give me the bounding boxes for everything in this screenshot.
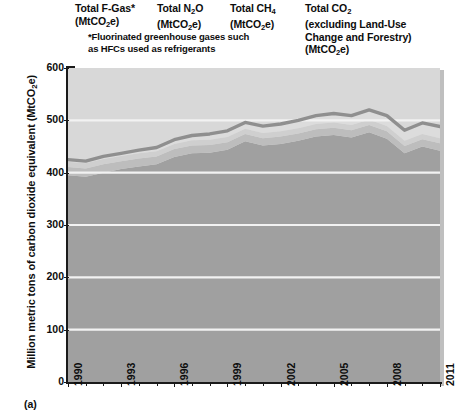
x-tick-mark-minor-2007	[369, 382, 370, 386]
y-tick-label-300: 300	[30, 218, 64, 230]
x-tick-mark-minor-2010	[422, 382, 423, 386]
stacked-area-chart	[68, 68, 440, 382]
x-tick-mark-minor-2001	[263, 382, 264, 386]
x-tick-label-1993: 1993	[125, 363, 137, 386]
x-tick-label-2002: 2002	[285, 363, 297, 386]
y-tick-label-500: 500	[30, 113, 64, 125]
series-header-n2o: Total N2O (MtCO2e)	[157, 2, 203, 34]
y-tick-label-600: 600	[30, 61, 64, 73]
series-header-co2-line2: (excluding Land-Use	[305, 18, 412, 31]
series-header-fgas-line1: Total F-Gas*	[75, 2, 135, 15]
x-tick-mark-minor-1992	[103, 382, 104, 386]
series-header-co2-line3: Change and Forestry)	[305, 31, 412, 44]
x-tick-mark-minor-2006	[351, 382, 352, 386]
x-tick-mark-1996	[174, 382, 175, 387]
x-tick-mark-minor-1995	[157, 382, 158, 386]
figure-panel-a: Total F-Gas* (MtCO2e) Total N2O (MtCO2e)…	[0, 0, 455, 417]
chart-plot-area	[68, 68, 440, 382]
y-tick-label-100: 100	[30, 323, 64, 335]
series-header-co2-line4: (MtCO2e)	[305, 43, 412, 59]
series-header-fgas: Total F-Gas* (MtCO2e)	[75, 2, 135, 31]
x-axis-line	[66, 382, 442, 384]
x-tick-mark-1993	[121, 382, 122, 387]
y-tick-mark-600	[64, 68, 69, 69]
y-axis-ticks: 0100200300400500600	[24, 0, 64, 417]
y-tick-mark-400	[64, 173, 69, 174]
series-header-ch4-line1: Total CH4	[230, 2, 276, 18]
x-tick-label-1996: 1996	[178, 363, 190, 386]
x-tick-mark-minor-1991	[86, 382, 87, 386]
y-tick-mark-200	[64, 277, 69, 278]
series-header-ch4: Total CH4 (MtCO2e)	[230, 2, 276, 34]
y-tick-mark-500	[64, 120, 69, 121]
x-tick-label-1999: 1999	[231, 363, 243, 386]
y-tick-mark-300	[64, 225, 69, 226]
series-header-fgas-line2: (MtCO2e)	[75, 15, 135, 31]
panel-label: (a)	[24, 398, 37, 410]
y-tick-mark-100	[64, 330, 69, 331]
x-tick-label-2008: 2008	[391, 363, 403, 386]
footnote-fgas: *Fluorinated greenhouse gases such as HF…	[88, 31, 249, 54]
series-header-n2o-line1: Total N2O	[157, 2, 203, 18]
x-tick-mark-2005	[334, 382, 335, 387]
x-tick-mark-minor-2000	[245, 382, 246, 386]
x-tick-mark-1990	[68, 382, 69, 387]
footnote-line2: as HFCs used as refrigerants	[88, 43, 249, 55]
x-tick-mark-minor-2003	[298, 382, 299, 386]
x-tick-mark-minor-1997	[192, 382, 193, 386]
y-tick-label-0: 0	[30, 375, 64, 387]
series-header-co2-line1: Total CO2	[305, 2, 412, 18]
x-tick-mark-2011	[440, 382, 441, 387]
x-tick-mark-2002	[281, 382, 282, 387]
x-tick-label-2011: 2011	[444, 363, 455, 386]
x-tick-mark-minor-2004	[316, 382, 317, 386]
plot-edge-shadow	[440, 70, 444, 386]
x-tick-label-1990: 1990	[72, 363, 84, 386]
x-tick-mark-minor-1994	[139, 382, 140, 386]
y-tick-label-400: 400	[30, 166, 64, 178]
x-tick-mark-minor-2009	[405, 382, 406, 386]
footnote-line1: *Fluorinated greenhouse gases such	[88, 31, 249, 43]
x-tick-mark-minor-1998	[210, 382, 211, 386]
x-tick-mark-1999	[227, 382, 228, 387]
y-tick-label-200: 200	[30, 270, 64, 282]
area-band-co2	[68, 132, 440, 382]
x-tick-mark-2008	[387, 382, 388, 387]
x-tick-label-2005: 2005	[338, 363, 350, 386]
series-header-co2: Total CO2 (excluding Land-Use Change and…	[305, 2, 412, 59]
